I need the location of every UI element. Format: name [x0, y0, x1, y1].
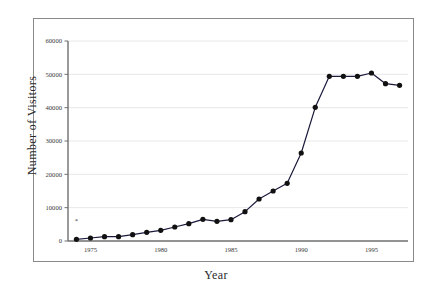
figure: Number of Visitors Year 0100002000030000…	[0, 0, 432, 292]
data-point	[242, 209, 247, 214]
gridlines	[68, 41, 408, 208]
data-point	[172, 224, 177, 229]
x-tick-label: 1980	[154, 246, 168, 253]
data-point	[369, 70, 374, 75]
data-point	[130, 232, 135, 237]
y-tick-label: 20000	[46, 171, 63, 178]
y-tick-label: 30000	[46, 137, 63, 144]
data-point	[256, 196, 261, 201]
y-tick-label: 40000	[46, 104, 63, 111]
data-point	[327, 74, 332, 79]
data-line	[76, 73, 399, 239]
data-point	[299, 150, 304, 155]
y-tick-label: 10000	[46, 204, 63, 211]
data-point	[383, 81, 388, 86]
data-point	[144, 230, 149, 235]
data-point	[397, 83, 402, 88]
data-point	[313, 105, 318, 110]
data-point	[285, 181, 290, 186]
data-point	[88, 235, 93, 240]
data-point	[200, 217, 205, 222]
y-tick-label: 50000	[46, 71, 63, 78]
data-point	[158, 228, 163, 233]
data-point	[341, 74, 346, 79]
data-point	[186, 221, 191, 226]
data-point	[116, 234, 121, 239]
x-tick-label: 1985	[224, 246, 238, 253]
annotations: *	[75, 217, 78, 224]
y-tick-label: 0	[59, 237, 63, 244]
data-point	[228, 217, 233, 222]
data-point	[102, 234, 107, 239]
x-tick-labels: 19751980198519901995	[84, 246, 379, 253]
x-tick-label: 1995	[365, 246, 379, 253]
y-axis	[65, 41, 69, 241]
y-tick-label: 60000	[46, 37, 63, 44]
data-point	[214, 219, 219, 224]
line-chart: 0100002000030000400005000060000 19751980…	[0, 0, 432, 292]
x-tick-label: 1990	[295, 246, 309, 253]
data-point	[355, 74, 360, 79]
y-tick-labels: 0100002000030000400005000060000	[46, 37, 63, 244]
x-tick-label: 1975	[84, 246, 98, 253]
annotation-asterisk: *	[75, 217, 78, 224]
data-point	[271, 188, 276, 193]
data-point	[74, 237, 79, 242]
